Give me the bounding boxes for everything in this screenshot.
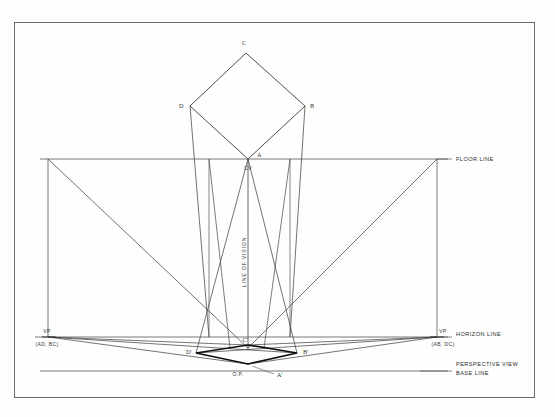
plan-vertex-label-d: D	[179, 102, 184, 109]
vp-left-label: VP	[43, 328, 51, 334]
perspective-construction-drawing: C B A D CV LINE OF VISION FLOOR LINE HOR…	[0, 0, 555, 417]
visual-ray-left-outer	[209, 159, 230, 348]
plan-vertex-label-c: C	[242, 39, 246, 46]
line-of-vision-label: LINE OF VISION	[241, 237, 247, 287]
drawing-sheet: C B A D CV LINE OF VISION FLOOR LINE HOR…	[0, 0, 555, 417]
plan-vertex-label-a: A	[257, 151, 262, 158]
origin-point-label: O.P.	[233, 371, 244, 377]
diagonal-left-to-center	[48, 159, 248, 348]
base-line-label-line1: PERSPECTIVE VIEW	[456, 361, 518, 367]
vp-right-ray-to-dprime	[196, 337, 437, 353]
vp-left-ray-to-bprime	[48, 337, 297, 353]
plan-vertex-label-b: B	[310, 102, 314, 109]
diagonal-right-to-center	[248, 159, 437, 348]
horizon-line-label: HORIZON LINE	[456, 331, 501, 337]
plan-view-square	[190, 53, 305, 159]
visual-ray-right-outer	[264, 159, 290, 348]
perspective-vertex-label-cprime: C'	[242, 336, 247, 343]
vp-right-label: VP	[439, 328, 447, 334]
sight-line-to-b	[290, 106, 305, 337]
perspective-vertex-label-bprime: B'	[303, 348, 308, 355]
station-point-label: CV	[244, 165, 252, 171]
perspective-quadrilateral	[196, 345, 297, 364]
perspective-vertex-label-dprime: D'	[186, 348, 192, 355]
leader-line-op-aprime	[252, 366, 274, 374]
base-line-label-line2: BASE LINE	[456, 370, 489, 376]
vp-left-sublabel: (AD, BC)	[36, 341, 59, 347]
perspective-vertex-label-aprime: A'	[277, 371, 283, 378]
floor-line-label: FLOOR LINE	[456, 156, 494, 162]
vp-right-sublabel: (AB, DC)	[432, 341, 455, 347]
